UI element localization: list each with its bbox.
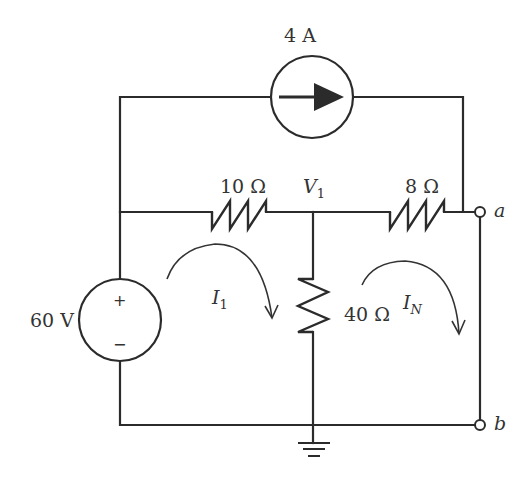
node-v1-name: V (303, 175, 317, 197)
mesh-current-in-subscript: N (411, 302, 422, 317)
resistor-10-ohm (212, 201, 266, 229)
mesh-current-i1-subscript: 1 (220, 297, 228, 312)
ground-icon (298, 443, 330, 456)
minus-sign: − (113, 337, 126, 353)
terminal-a-node (475, 207, 485, 217)
node-v1-subscript: 1 (317, 186, 325, 201)
resistor-8-ohm-label: 8 Ω (405, 177, 439, 196)
mesh-current-i1-name: I (212, 286, 220, 308)
plus-sign: + (113, 293, 126, 309)
terminal-b-node (475, 420, 485, 430)
resistor-40-ohm-label: 40 Ω (344, 305, 390, 324)
circuit-diagram: 4 A 10 Ω V1 8 Ω a b 60 V + − I1 40 Ω IN (0, 0, 530, 487)
current-source-label: 4 A (284, 26, 316, 45)
terminal-b-label: b (494, 414, 506, 433)
terminal-a-label: a (494, 201, 505, 220)
current-source (271, 56, 353, 138)
resistor-40-ohm (298, 279, 328, 332)
mesh-current-in-name: I (403, 291, 411, 313)
voltage-source-label: 60 V (30, 311, 74, 330)
circuit-schematic (0, 0, 530, 487)
left-lower-wire (120, 361, 475, 425)
resistor-8-ohm (390, 201, 444, 229)
resistor-10-ohm-label: 10 Ω (220, 177, 266, 196)
node-v1-label: V1 (303, 177, 325, 196)
mesh-current-i1-label: I1 (212, 288, 228, 307)
mesh-current-in-label: IN (403, 293, 422, 312)
